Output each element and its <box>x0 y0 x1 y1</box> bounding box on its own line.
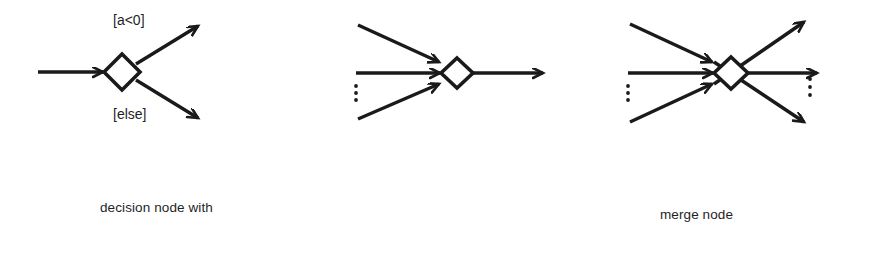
guard-label-true: [a<0] <box>113 12 145 28</box>
decision-diamond-icon <box>104 54 140 90</box>
combined-incoming-edge-1 <box>630 24 712 62</box>
merge-node-panel: merge node <box>300 0 570 254</box>
uml-notation-figure: [a<0] [else] decision node with multiple… <box>0 0 892 254</box>
merge-diamond-icon <box>441 58 473 88</box>
merge-node-diagram <box>300 0 570 150</box>
merge-incoming-edge-3 <box>358 84 439 119</box>
combined-incoming-edge-3 <box>630 84 712 122</box>
guard-label-else: [else] <box>113 106 146 122</box>
combined-node-diagram <box>570 0 892 150</box>
merge-ellipsis-left-icon <box>354 84 358 102</box>
decision-outgoing-edge-true <box>136 26 198 64</box>
decision-node-caption: decision node with multiple outgoing edg… <box>100 160 245 254</box>
combined-ellipsis-right-icon <box>808 77 812 97</box>
caption-line: decision node with <box>100 198 245 217</box>
combined-diamond-icon <box>714 57 748 89</box>
combined-node-panel: combined decision/merge node <box>570 0 892 254</box>
decision-node-panel: [a<0] [else] decision node with multiple… <box>0 0 300 254</box>
merge-incoming-edge-1 <box>358 25 439 62</box>
combined-ellipsis-left-icon <box>626 84 630 102</box>
decision-node-diagram <box>0 0 300 150</box>
